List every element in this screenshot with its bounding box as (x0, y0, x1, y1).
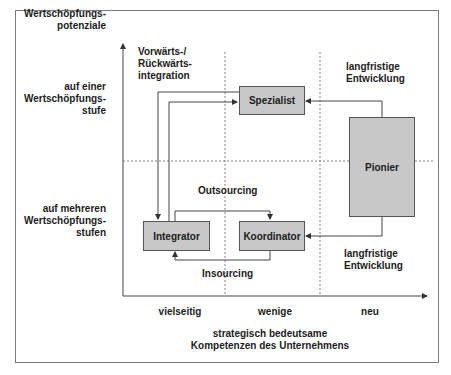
annotation-line: langfristige (346, 61, 405, 73)
insourcing-label: Insourcing (202, 268, 253, 280)
y-axis-title: Wertschöpfungs- potenziale (20, 8, 106, 32)
y-label-multi-stage: auf mehreren Wertschöpfungs- stufen (20, 203, 106, 239)
outsourcing-label: Outsourcing (198, 185, 257, 197)
x-axis-title-line: strategisch bedeutsame (130, 328, 410, 340)
pionier-box: Pionier (349, 117, 415, 217)
y-label-single-stage: auf einer Wertschöpfungs- stufe (20, 81, 106, 117)
y-label-line: stufen (20, 227, 106, 239)
y-label-line: Wertschöpfungs- (20, 93, 106, 105)
long-term-development-bottom-label: langfristige Entwicklung (344, 248, 403, 272)
x-category-neu: neu (330, 306, 410, 318)
y-label-line: auf mehreren (20, 203, 106, 215)
y-label-line: Wertschöpfungs- (20, 215, 106, 227)
annotation-line: Entwicklung (346, 73, 405, 85)
long-term-development-top-label: langfristige Entwicklung (346, 61, 405, 85)
x-category-wenige: wenige (235, 306, 315, 318)
annotation-line: Vorwärts-/ (138, 46, 192, 58)
y-axis-title-line: potenziale (20, 20, 106, 32)
x-category-vielseitig: vielseitig (140, 306, 220, 318)
y-label-line: auf einer (20, 81, 106, 93)
integration-arrows (158, 92, 239, 221)
integrator-box: Integrator (143, 221, 210, 251)
koordinator-box: Koordinator (239, 221, 305, 251)
y-label-line: stufe (20, 105, 106, 117)
annotation-line: integration (138, 70, 192, 82)
x-axis-title-line: Kompetenzen des Unternehmens (130, 340, 410, 352)
annotation-line: Rückwärts- (138, 58, 192, 70)
annotation-line: Entwicklung (344, 260, 403, 272)
x-axis-title: strategisch bedeutsame Kompetenzen des U… (130, 328, 410, 352)
y-axis-title-line: Wertschöpfungs- (20, 8, 106, 20)
spezialist-box: Spezialist (239, 86, 305, 115)
vertical-integration-label: Vorwärts-/ Rückwärts- integration (138, 46, 192, 82)
annotation-line: langfristige (344, 248, 403, 260)
